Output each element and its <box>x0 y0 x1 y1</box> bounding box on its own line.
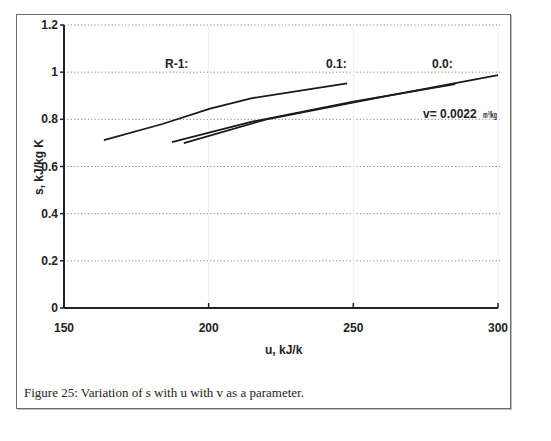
x-tick-label: 200 <box>199 321 219 335</box>
figure-caption: Figure 25: Variation of s with u with v … <box>24 385 304 401</box>
y-tick-label: 0.4 <box>41 207 58 221</box>
y-tick-label: 0.2 <box>41 254 58 268</box>
y-tick-label: 0.8 <box>41 112 58 126</box>
y-axis-label: s, kJ/kg K <box>32 139 46 195</box>
series-label-003: 0.0: <box>432 57 453 71</box>
x-tick-label: 150 <box>54 321 74 335</box>
y-tick-label: 0 <box>51 301 58 315</box>
series-label-00022: v= 0.0022 <box>423 107 477 121</box>
x-axis-label: u, kJ/k <box>265 343 303 357</box>
y-tick-label: 1 <box>51 65 58 79</box>
x-tick-label: 250 <box>343 321 363 335</box>
x-tick-label: 300 <box>488 321 508 335</box>
y-tick-label: 1.2 <box>41 18 58 32</box>
series-label-unit: m³/kg <box>483 110 497 120</box>
series-label-r12: R-1: <box>165 57 188 71</box>
chart: 00.20.40.60.811.2150200250300 R-1: 0.1: … <box>0 0 551 441</box>
series-label-012: 0.1: <box>326 57 347 71</box>
